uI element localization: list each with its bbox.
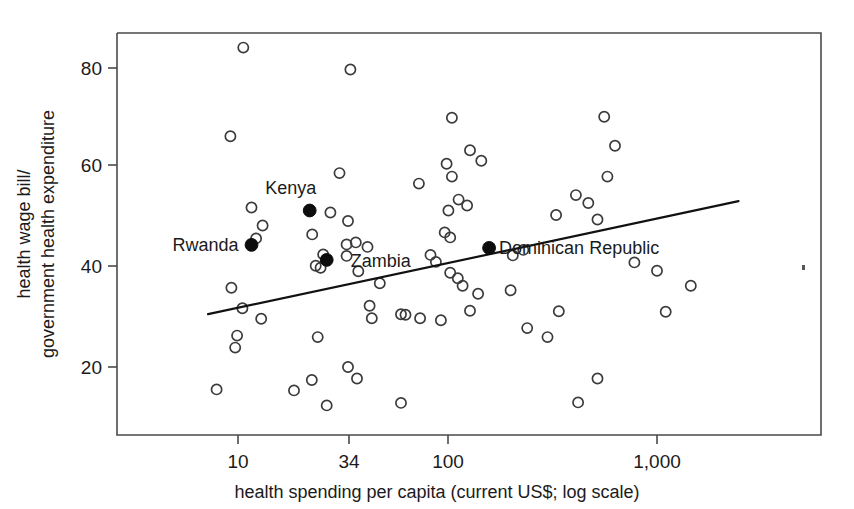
- data-point: [458, 281, 468, 291]
- data-point: [415, 313, 425, 323]
- data-point: [414, 179, 424, 189]
- y-tick-label-40: 40: [81, 256, 102, 277]
- point-label-rwanda: Rwanda: [172, 235, 239, 255]
- point-label-dominican-republic: Dominican Republic: [499, 238, 659, 258]
- data-point: [325, 207, 335, 217]
- chart-canvas: 80 60 40 20 10 34 100 1,000 health spend…: [0, 0, 854, 509]
- highlighted-data-points: KenyaRwandaZambiaDominican Republic: [172, 178, 659, 271]
- data-point: [367, 313, 377, 323]
- highlighted-data-point-zambia: [320, 254, 333, 267]
- data-point: [230, 343, 240, 353]
- data-point: [238, 43, 248, 53]
- x-tick-label-100: 100: [432, 451, 464, 472]
- data-point: [465, 306, 475, 316]
- y-axis-title-line-1: health wage bill/: [14, 169, 34, 298]
- data-point: [442, 159, 452, 169]
- data-point: [573, 397, 583, 407]
- data-point: [465, 145, 475, 155]
- y-axis-ticks: [108, 68, 117, 367]
- data-point: [592, 214, 602, 224]
- data-point: [334, 168, 344, 178]
- data-point: [375, 278, 385, 288]
- data-point: [602, 172, 612, 182]
- data-point: [447, 113, 457, 123]
- data-point: [506, 285, 516, 295]
- highlighted-data-point-rwanda: [245, 239, 258, 252]
- data-point: [258, 220, 268, 230]
- data-point: [554, 306, 564, 316]
- data-point: [661, 307, 671, 317]
- data-point: [212, 384, 222, 394]
- data-point: [396, 398, 406, 408]
- data-point: [583, 198, 593, 208]
- y-tick-label-80: 80: [81, 58, 102, 79]
- data-point: [425, 250, 435, 260]
- y-tick-label-60: 60: [81, 155, 102, 176]
- ink-speck: [802, 265, 805, 270]
- data-point: [473, 289, 483, 299]
- y-axis-title-line-2: government health expenditure: [38, 110, 58, 358]
- data-point: [343, 362, 353, 372]
- data-point: [599, 112, 609, 122]
- data-point: [476, 156, 486, 166]
- data-point: [289, 385, 299, 395]
- data-point: [225, 131, 235, 141]
- data-point: [447, 172, 457, 182]
- y-axis-tick-labels: 80 60 40 20: [81, 58, 102, 378]
- data-point: [256, 314, 266, 324]
- data-point: [343, 216, 353, 226]
- data-point: [522, 323, 532, 333]
- data-point: [686, 281, 696, 291]
- data-point: [551, 210, 561, 220]
- point-label-kenya: Kenya: [265, 178, 317, 198]
- x-axis-ticks: [238, 435, 657, 444]
- scatter-plot-figure: 80 60 40 20 10 34 100 1,000 health spend…: [0, 0, 854, 509]
- y-tick-label-20: 20: [81, 357, 102, 378]
- x-tick-label-34: 34: [338, 451, 360, 472]
- x-axis-title: health spending per capita (current US$;…: [234, 482, 639, 502]
- data-point: [322, 400, 332, 410]
- x-axis-tick-labels: 10 34 100 1,000: [227, 451, 680, 472]
- highlighted-data-point-dominican-republic: [483, 242, 496, 255]
- data-point: [629, 257, 639, 267]
- data-point: [307, 375, 317, 385]
- x-tick-label-10: 10: [227, 451, 248, 472]
- data-point: [232, 331, 242, 341]
- highlighted-data-point-kenya: [303, 204, 316, 217]
- data-point: [365, 301, 375, 311]
- data-point: [453, 273, 463, 283]
- data-point: [342, 239, 352, 249]
- data-point: [592, 373, 602, 383]
- data-point: [542, 332, 552, 342]
- data-point: [307, 229, 317, 239]
- data-point: [352, 373, 362, 383]
- data-point: [436, 315, 446, 325]
- data-point: [443, 205, 453, 215]
- data-point: [313, 332, 323, 342]
- data-point: [345, 64, 355, 74]
- x-tick-label-1000: 1,000: [633, 451, 681, 472]
- y-axis-title: health wage bill/ government health expe…: [14, 110, 58, 358]
- point-label-zambia: Zambia: [351, 251, 412, 271]
- data-point: [246, 202, 256, 212]
- data-point: [462, 200, 472, 210]
- data-point: [610, 141, 620, 151]
- data-point: [652, 266, 662, 276]
- data-point: [571, 190, 581, 200]
- data-point: [226, 283, 236, 293]
- ink-speck: [802, 265, 805, 270]
